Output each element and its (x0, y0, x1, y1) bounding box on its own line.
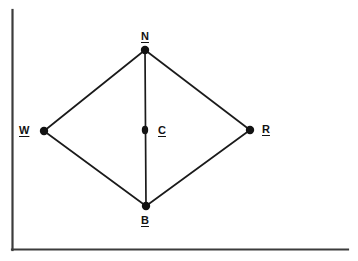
edge-N-R (145, 50, 250, 130)
figure-canvas: N W R B C (0, 0, 358, 261)
axis-frame (12, 10, 348, 250)
point-marker-C (142, 126, 148, 134)
point-label-B: B (141, 215, 149, 226)
point-marker-N (141, 46, 149, 54)
vertex-markers (40, 46, 254, 210)
edge-N-W (44, 50, 145, 131)
point-label-W: W (19, 125, 29, 136)
edge-W-B (44, 131, 146, 206)
point-marker-W (40, 127, 48, 135)
point-marker-B (142, 202, 150, 210)
point-label-R: R (262, 124, 270, 135)
diagram-svg (0, 0, 358, 261)
point-label-C: C (158, 125, 166, 136)
point-marker-R (246, 126, 254, 134)
edge-R-B (146, 130, 250, 206)
point-label-N: N (141, 31, 149, 42)
